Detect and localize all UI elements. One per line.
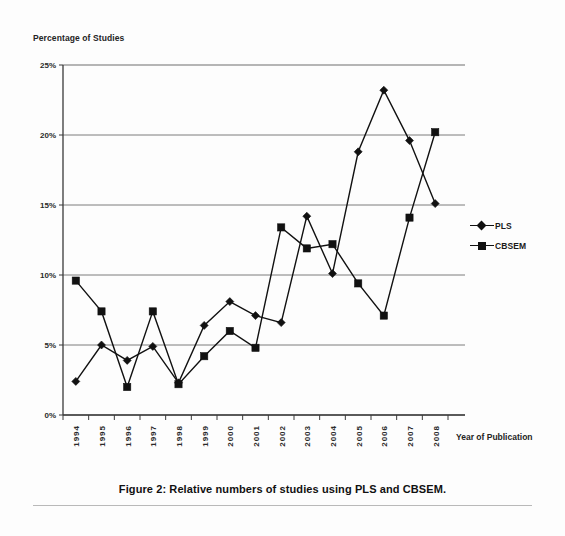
data-point-pls[interactable] [380,86,388,94]
data-point-pls[interactable] [252,312,260,320]
data-point-pls[interactable] [431,200,439,208]
x-tick-label: 2000 [226,425,235,447]
x-tick-label: 1996 [124,425,133,447]
legend-label-cbsem: CBSEM [494,241,526,251]
figure-caption: Figure 2: Relative numbers of studies us… [0,483,565,495]
data-point-cbsem[interactable] [303,245,310,252]
square-marker-icon [470,239,494,253]
figure-container: Percentage of Studies 0%5%10%15%20%25%19… [0,0,565,536]
x-tick-label: 2005 [355,425,364,447]
legend-item-pls[interactable]: PLS [470,216,550,236]
data-point-pls[interactable] [329,270,337,278]
data-point-pls[interactable] [354,148,362,156]
series-line-pls [76,90,435,383]
data-point-cbsem[interactable] [149,308,156,315]
chart-legend: PLS CBSEM [470,216,550,256]
legend-item-cbsem[interactable]: CBSEM [470,236,550,256]
legend-label-pls: PLS [494,221,512,231]
data-point-pls[interactable] [406,137,414,145]
horizontal-rule [33,505,532,506]
data-point-cbsem[interactable] [175,381,182,388]
x-tick-label: 1997 [149,425,158,447]
data-point-cbsem[interactable] [98,308,105,315]
x-tick-label: 1994 [72,425,81,447]
x-tick-label: 1999 [201,425,210,447]
x-axis-title: Year of Publication [456,432,533,442]
data-point-cbsem[interactable] [329,241,336,248]
y-tick-label: 10% [40,271,56,280]
data-point-pls[interactable] [123,356,131,364]
data-point-cbsem[interactable] [380,312,387,319]
y-tick-label: 15% [40,201,56,210]
y-tick-label: 5% [44,341,56,350]
y-tick-label: 25% [40,61,56,70]
x-tick-label: 2003 [303,425,312,447]
data-point-cbsem[interactable] [226,327,233,334]
data-point-cbsem[interactable] [355,280,362,287]
x-tick-label: 2007 [406,425,415,447]
data-point-cbsem[interactable] [201,353,208,360]
x-tick-label: 1995 [98,425,107,447]
data-point-cbsem[interactable] [406,214,413,221]
data-point-cbsem[interactable] [72,277,79,284]
data-point-cbsem[interactable] [432,129,439,136]
diamond-marker-icon [470,219,494,233]
y-tick-label: 20% [40,131,56,140]
data-point-pls[interactable] [277,319,285,327]
data-point-cbsem[interactable] [252,344,259,351]
data-point-cbsem[interactable] [278,224,285,231]
x-tick-label: 2002 [278,425,287,447]
x-tick-label: 1998 [175,425,184,447]
x-tick-label: 2008 [432,425,441,447]
y-tick-label: 0% [44,411,56,420]
x-tick-label: 2001 [252,425,261,447]
data-point-cbsem[interactable] [124,383,131,390]
x-tick-label: 2006 [380,425,389,447]
data-point-pls[interactable] [303,212,311,220]
x-tick-label: 2004 [329,425,338,447]
